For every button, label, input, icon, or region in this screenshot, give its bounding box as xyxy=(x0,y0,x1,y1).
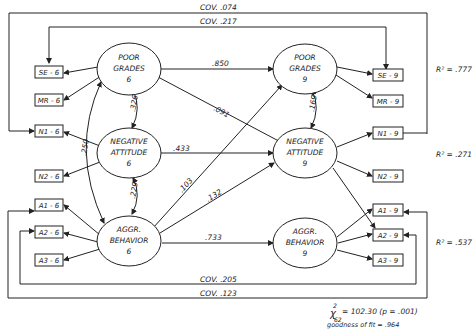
svg-text:MR - 9: MR - 9 xyxy=(377,98,400,106)
svg-text:AGGR.: AGGR. xyxy=(116,225,141,234)
indicator-se-9: SE - 9 xyxy=(373,69,403,81)
path-label-091: .091 xyxy=(212,104,231,120)
svg-text:9: 9 xyxy=(303,75,308,84)
svg-text:NEGATIVE: NEGATIVE xyxy=(286,137,324,146)
indicator-a3-9: A3 - 9 xyxy=(373,254,403,266)
svg-text:POOR: POOR xyxy=(118,53,140,62)
latent-negative-attitude-9: NEGATIVE ATTITUDE 9 xyxy=(273,128,337,178)
latent-aggr-behavior-6: AGGR. BEHAVIOR 6 xyxy=(97,216,161,266)
covariance-lines xyxy=(8,13,427,298)
indicator-n2-6: N2 - 6 xyxy=(35,170,63,182)
indicator-n1-9: N1 - 9 xyxy=(373,127,403,139)
svg-text:A2 - 6: A2 - 6 xyxy=(38,229,60,237)
svg-text:9: 9 xyxy=(303,249,308,258)
svg-text:A1 - 6: A1 - 6 xyxy=(38,202,60,210)
cov-label-217: COV. .217 xyxy=(200,17,237,26)
path-label-433: .433 xyxy=(173,144,190,153)
corr-label-326: .326 xyxy=(128,94,140,112)
structural-equation-diagram: COV. .074 COV. .217 COV. .205 COV. .123 … xyxy=(0,0,474,336)
chi-square-df-sup: 2 xyxy=(333,302,337,309)
latent-negative-attitude-6: NEGATIVE ATTITUDE 6 xyxy=(97,128,161,178)
indicator-mr-6: MR - 6 xyxy=(35,94,63,106)
indicator-n1-6: N1 - 6 xyxy=(35,125,63,137)
indicator-a2-6: A2 - 6 xyxy=(35,226,63,238)
svg-text:SE - 9: SE - 9 xyxy=(378,72,399,80)
r2-negative-attitude-9: R² = .271 xyxy=(436,150,472,159)
r2-aggr-behavior-9: R² = .537 xyxy=(436,238,472,247)
svg-text:6: 6 xyxy=(127,75,132,84)
latent-poor-grades-6: POOR GRADES 6 xyxy=(97,43,161,95)
structural-paths xyxy=(153,69,290,243)
svg-text:6: 6 xyxy=(127,247,132,256)
svg-text:ATTITUDE: ATTITUDE xyxy=(110,148,148,157)
latent-poor-grades-9: POOR GRADES 9 xyxy=(273,44,337,94)
indicator-a2-9: A2 - 9 xyxy=(373,229,403,241)
r2-poor-grades-9: R² = .777 xyxy=(436,65,472,74)
svg-text:A3 - 6: A3 - 6 xyxy=(38,257,60,265)
cov-label-123: COV. .123 xyxy=(200,289,237,298)
svg-text:BEHAVIOR: BEHAVIOR xyxy=(286,238,325,247)
indicator-a3-6: A3 - 6 xyxy=(35,254,63,266)
corr-label-250: .250 xyxy=(79,138,91,156)
path-label-850: .850 xyxy=(212,59,229,68)
corr-label-169: .169 xyxy=(307,94,319,112)
measurement-arrows-9 xyxy=(333,67,375,259)
path-label-733: .733 xyxy=(205,233,222,242)
cov-label-074: COV. .074 xyxy=(200,3,237,12)
svg-text:6: 6 xyxy=(127,159,132,168)
svg-text:A3 - 9: A3 - 9 xyxy=(377,257,399,265)
svg-text:9: 9 xyxy=(303,159,308,168)
indicator-a1-6: A1 - 6 xyxy=(35,199,63,211)
goodness-of-fit: goodness of fit = .964 xyxy=(327,321,399,329)
svg-text:SE - 6: SE - 6 xyxy=(39,69,60,77)
fit-statistics: χ 2 62 = 102.30 (p = .001) goodness of f… xyxy=(327,302,418,329)
indicator-a1-9: A1 - 9 xyxy=(373,204,403,216)
latent-aggr-behavior-9: AGGR. BEHAVIOR 9 xyxy=(273,218,337,268)
corr-label-229: .229 xyxy=(128,181,140,199)
cov-label-205: COV. .205 xyxy=(200,275,237,284)
indicator-se-6: SE - 6 xyxy=(35,66,63,78)
svg-text:GRADES: GRADES xyxy=(289,64,321,73)
indicator-mr-9: MR - 9 xyxy=(373,95,403,107)
svg-text:N2 - 9: N2 - 9 xyxy=(377,173,399,181)
svg-text:A1 - 9: A1 - 9 xyxy=(377,207,399,215)
svg-text:ATTITUDE: ATTITUDE xyxy=(286,148,324,157)
svg-text:N1 - 9: N1 - 9 xyxy=(377,130,399,138)
svg-text:NEGATIVE: NEGATIVE xyxy=(110,137,148,146)
svg-text:N2 - 6: N2 - 6 xyxy=(38,173,60,181)
svg-text:AGGR.: AGGR. xyxy=(292,227,317,236)
indicator-n2-9: N2 - 9 xyxy=(373,170,403,182)
svg-text:A2 - 9: A2 - 9 xyxy=(377,232,399,240)
svg-text:MR - 6: MR - 6 xyxy=(38,97,61,105)
svg-text:N1 - 6: N1 - 6 xyxy=(38,128,60,136)
svg-text:POOR: POOR xyxy=(294,53,316,62)
svg-text:GRADES: GRADES xyxy=(113,64,145,73)
chi-square-value: = 102.30 (p = .001) xyxy=(342,307,418,316)
svg-text:BEHAVIOR: BEHAVIOR xyxy=(110,236,149,245)
path-label-132: .132 xyxy=(204,187,223,203)
